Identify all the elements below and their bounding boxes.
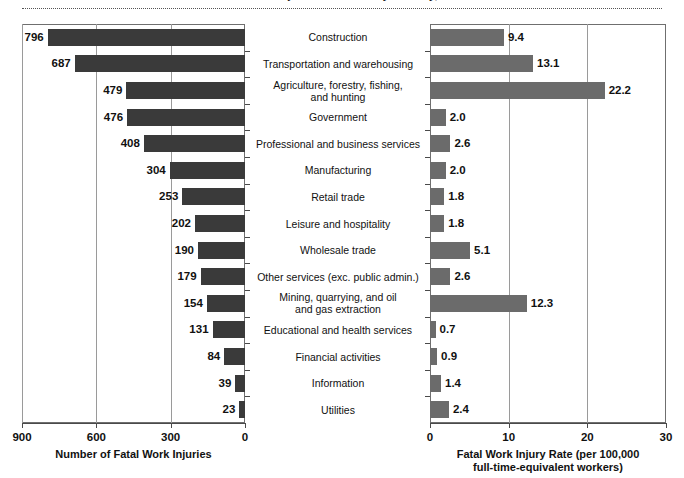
category-label-line: Financial activities <box>249 351 427 363</box>
bar-value-label: 1.8 <box>448 188 490 205</box>
category-label-line: and hunting <box>249 91 427 103</box>
category-label-line: Wholesale trade <box>249 244 427 256</box>
right-row-tick <box>425 77 430 78</box>
left-axis-tick-label: 300 <box>146 431 196 443</box>
category-label: Other services (exc. public admin.) <box>249 271 427 283</box>
right-row-tick <box>425 104 430 105</box>
left-row-tick <box>245 51 250 52</box>
bar-left <box>127 109 245 126</box>
right-axis-line <box>430 423 666 424</box>
bar-right <box>430 29 504 46</box>
bar-value-label: 13.1 <box>537 55 579 72</box>
chart-title: Fatal Work Injuries and Rates by Industr… <box>22 0 662 1</box>
category-label: Wholesale trade <box>249 244 427 256</box>
bar-right <box>430 295 527 312</box>
bar-value-label: 154 <box>161 295 203 312</box>
right-axis-title: Fatal Work Injury Rate (per 100,000 full… <box>405 448 684 474</box>
bar-right <box>430 348 437 365</box>
bar-value-label: 304 <box>124 162 166 179</box>
category-label-line: Educational and health services <box>249 324 427 336</box>
category-label: Agriculture, forestry, fishing,and hunti… <box>249 79 427 103</box>
left-row-tick <box>245 237 250 238</box>
category-label-line: Retail trade <box>249 191 427 203</box>
category-label-line: Transportation and warehousing <box>249 58 427 70</box>
left-axis-title: Number of Fatal Work Injuries <box>0 448 270 461</box>
bar-left <box>239 401 245 418</box>
left-row-tick <box>245 370 250 371</box>
right-row-tick <box>425 263 430 264</box>
left-axis-tick-label: 0 <box>220 431 270 443</box>
bar-value-label: 0.9 <box>441 348 483 365</box>
category-label-line: Other services (exc. public admin.) <box>249 271 427 283</box>
left-row-tick <box>245 104 250 105</box>
left-axis-tick-label: 600 <box>71 431 121 443</box>
bar-right <box>430 268 450 285</box>
bar-value-label: 9.4 <box>508 29 550 46</box>
category-label: Financial activities <box>249 351 427 363</box>
right-axis-title-line1: Fatal Work Injury Rate (per 100,000 <box>405 448 684 461</box>
bar-left <box>235 375 245 392</box>
bar-value-label: 479 <box>80 82 122 99</box>
right-row-tick <box>425 157 430 158</box>
chart-figure: Fatal Work Injuries and Rates by Industr… <box>0 0 684 478</box>
category-label-line: Agriculture, forestry, fishing, <box>249 79 427 91</box>
bar-value-label: 253 <box>136 188 178 205</box>
bar-value-label: 796 <box>2 29 44 46</box>
left-row-tick <box>245 130 250 131</box>
left-axis-tick <box>96 423 97 428</box>
category-label-line: Construction <box>249 31 427 43</box>
category-label: Information <box>249 377 427 389</box>
right-row-tick <box>425 210 430 211</box>
bar-left <box>213 321 245 338</box>
bar-value-label: 476 <box>81 109 123 126</box>
bar-value-label: 2.0 <box>450 109 492 126</box>
right-row-tick <box>425 184 430 185</box>
right-axis-tick <box>509 423 510 428</box>
category-label: Construction <box>249 31 427 43</box>
bar-left <box>207 295 245 312</box>
left-row-tick <box>245 210 250 211</box>
category-label: Educational and health services <box>249 324 427 336</box>
category-label-line: and gas extraction <box>249 303 427 315</box>
bar-left <box>224 348 245 365</box>
left-row-tick <box>245 317 250 318</box>
right-row-tick <box>425 396 430 397</box>
category-label: Transportation and warehousing <box>249 58 427 70</box>
bar-value-label: 1.4 <box>445 375 487 392</box>
bar-right <box>430 55 533 72</box>
title-divider <box>22 8 662 10</box>
right-axis-tick <box>430 423 431 428</box>
bar-value-label: 408 <box>98 135 140 152</box>
bar-right <box>430 109 446 126</box>
bar-value-label: 179 <box>155 268 197 285</box>
category-label-line: Information <box>249 377 427 389</box>
left-row-tick <box>245 157 250 158</box>
left-row-tick <box>245 396 250 397</box>
category-label-line: Government <box>249 111 427 123</box>
bar-value-label: 0.7 <box>440 321 482 338</box>
bar-right <box>430 321 436 338</box>
left-axis-tick <box>245 423 246 428</box>
right-row-tick <box>425 130 430 131</box>
category-label-line: Utilities <box>249 404 427 416</box>
category-label: Mining, quarrying, and oiland gas extrac… <box>249 291 427 315</box>
right-row-tick <box>425 343 430 344</box>
category-label-line: Professional and business services <box>249 138 427 150</box>
bar-right <box>430 215 444 232</box>
bar-left <box>48 29 245 46</box>
category-label-line: Leisure and hospitality <box>249 218 427 230</box>
bar-right <box>430 162 446 179</box>
bar-value-label: 84 <box>178 348 220 365</box>
category-label-line: Mining, quarrying, and oil <box>249 291 427 303</box>
bar-right <box>430 375 441 392</box>
category-label: Professional and business services <box>249 138 427 150</box>
bar-right <box>430 401 449 418</box>
right-axis-tick <box>587 423 588 428</box>
bar-right <box>430 135 450 152</box>
bar-value-label: 39 <box>189 375 231 392</box>
category-label: Retail trade <box>249 191 427 203</box>
bar-value-label: 190 <box>152 242 194 259</box>
bar-value-label: 2.6 <box>454 135 496 152</box>
bar-value-label: 22.2 <box>609 82 651 99</box>
right-axis-tick-label: 0 <box>405 431 455 443</box>
